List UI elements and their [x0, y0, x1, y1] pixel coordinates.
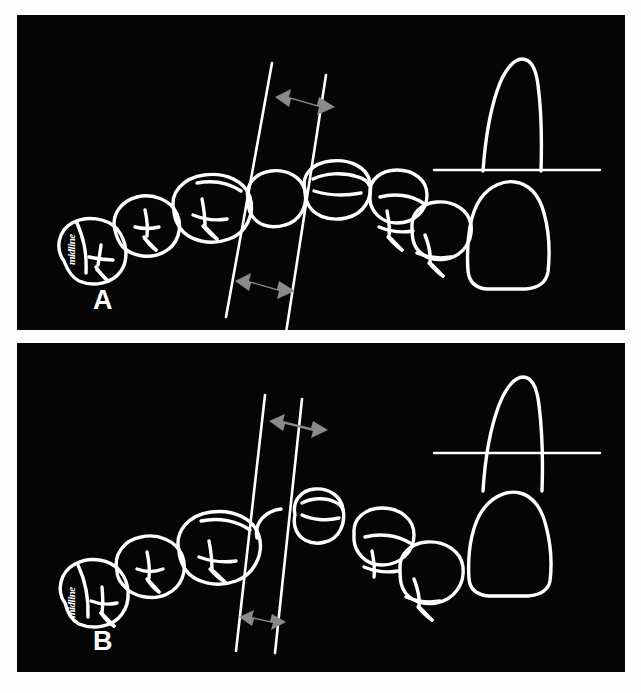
tooth-profile-root	[483, 377, 542, 491]
figure-container: midline A	[0, 0, 641, 693]
panel-letter-b: B	[93, 628, 113, 655]
tooth-fissure	[209, 541, 212, 569]
tooth-profile-crown	[469, 492, 551, 596]
tooth-fissure	[372, 551, 374, 577]
tooth-fissure	[102, 587, 103, 613]
tooth-fissure	[97, 270, 108, 281]
tooth-fissure	[135, 227, 159, 229]
tooth-fissure	[147, 552, 149, 578]
tooth-fissure	[145, 210, 147, 236]
lower-width-arrow	[235, 273, 295, 299]
tooth-ridge	[380, 195, 423, 203]
tooth-fissure	[406, 597, 440, 602]
tooth-fissure	[389, 237, 402, 250]
central-incisor-marginal-ridge	[314, 191, 361, 195]
panel-a-drawing	[17, 15, 625, 330]
panel-b-drawing	[17, 343, 625, 672]
central-incisor-marginal-ridge	[302, 515, 339, 520]
tooth-ridge	[197, 182, 241, 191]
panel-letter-a: A	[93, 287, 113, 314]
tooth-fissure	[417, 253, 451, 258]
tooth-profile-crown	[468, 182, 549, 289]
tooth-groove	[77, 223, 86, 273]
guideline-right	[275, 399, 302, 653]
tooth-fissure	[364, 567, 398, 572]
tooth-fissure	[204, 226, 217, 239]
handwritten-midline-label-b: midline	[65, 587, 77, 618]
tooth-outline	[247, 171, 305, 227]
tooth-fissure	[98, 245, 101, 265]
tooth-fissure	[148, 580, 159, 592]
tooth-profile-root	[483, 59, 541, 171]
panel-a: midline A	[17, 15, 625, 330]
tooth-fissure	[211, 569, 225, 582]
tooth-fissure	[430, 263, 443, 276]
tooth-fissure	[145, 239, 156, 250]
panel-b: midline B	[17, 343, 625, 672]
tooth-outline	[257, 509, 281, 538]
tooth-fissure	[419, 607, 432, 620]
tooth-fissure	[193, 215, 227, 220]
central-incisor-marginal-ridge	[313, 174, 369, 185]
handwritten-midline-label-a: midline	[65, 234, 77, 265]
tooth-fissure	[387, 211, 389, 237]
tooth-fissure	[199, 557, 236, 562]
tooth-ridge	[201, 519, 250, 530]
tooth-fissure	[89, 257, 113, 260]
tooth-ridge	[365, 535, 410, 543]
upper-width-arrow	[275, 89, 335, 115]
central-incisor-marginal-ridge	[302, 499, 343, 510]
tooth-groove	[78, 565, 88, 617]
tooth-fissure	[202, 199, 205, 226]
tooth-fissure	[379, 227, 413, 232]
